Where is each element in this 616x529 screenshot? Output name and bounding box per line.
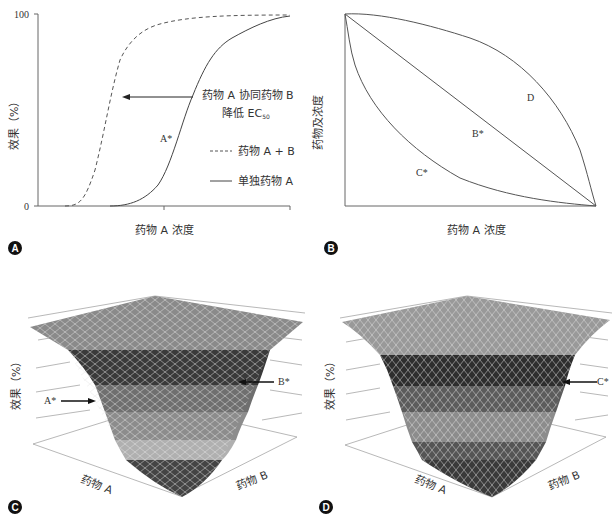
svg-text:C: C xyxy=(12,502,19,513)
legend-dashed-label: 药物 A + B xyxy=(238,144,295,158)
x-axis-label: 药物 A xyxy=(79,472,115,498)
arrow-label-b-star: B* xyxy=(278,376,290,387)
y-axis-label: 药物 B xyxy=(546,467,582,492)
arrow-head-icon xyxy=(122,94,130,100)
figure: 100 0 效果（%） 药物 A 浓度 药物 A 协同药物 B 降低 EC50 … xyxy=(0,0,616,529)
svg-text:D: D xyxy=(323,502,330,513)
panel-a: 100 0 效果（%） 药物 A 浓度 药物 A 协同药物 B 降低 EC50 … xyxy=(7,9,295,255)
panel-d: C* 效果（%） 药物 A 药物 B D xyxy=(319,296,612,514)
panel-c: A* B* 效果（%） 药物 A 药物 B C xyxy=(8,296,305,514)
arrow-label-a-star: A* xyxy=(44,395,56,406)
legend-solid-label: 单独药物 A xyxy=(238,174,293,188)
svg-text:A: A xyxy=(12,243,19,254)
y-axis-label: 药物及浓度 xyxy=(311,95,325,150)
x-axis-label: 药物 A 浓度 xyxy=(135,223,194,237)
y-axis-label: 效果（%） xyxy=(7,96,21,150)
panel-b: 药物及浓度 药物 A 浓度 D B* C* B xyxy=(311,14,596,255)
label-b-star: B* xyxy=(472,128,484,139)
y-tick-0: 0 xyxy=(24,201,29,212)
svg-text:B: B xyxy=(328,243,335,254)
y-tick-100: 100 xyxy=(14,9,29,20)
z-axis-label: 效果（%） xyxy=(323,356,337,410)
label-d: D xyxy=(527,92,534,103)
y-axis-label: 药物 B xyxy=(234,467,270,492)
annotation-line1: 药物 A 协同药物 B xyxy=(202,88,294,102)
arrow-label-c-star: C* xyxy=(597,376,609,387)
annotation-line2: 降低 EC50 xyxy=(222,106,270,120)
line-b-additive xyxy=(345,14,596,206)
z-axis-label: 效果（%） xyxy=(9,356,23,410)
point-label-a-star: A* xyxy=(160,133,172,144)
label-c-star: C* xyxy=(416,167,428,178)
x-axis-label: 药物 A 浓度 xyxy=(447,223,506,237)
